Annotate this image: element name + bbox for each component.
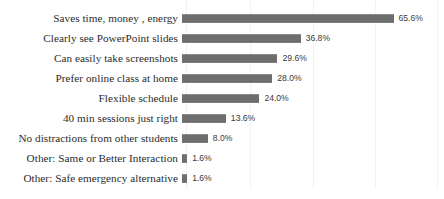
category-label: 40 min sessions just right <box>0 112 182 125</box>
bar-track: 24.0% <box>182 88 444 108</box>
category-label: Clearly see PowerPoint slides <box>0 32 182 45</box>
bar-row: Can easily take screenshots29.6% <box>0 48 444 68</box>
category-label: Prefer online class at home <box>0 72 182 85</box>
data-label: 13.6% <box>231 113 255 123</box>
bar-track: 36.8% <box>182 28 444 48</box>
data-label: 1.6% <box>192 153 212 163</box>
data-label: 24.0% <box>264 93 288 103</box>
bar[interactable] <box>182 54 277 63</box>
bar-row: No distractions from other students8.0% <box>0 128 444 148</box>
bar-rows: Saves time, money , energy65.6%Clearly s… <box>0 0 444 189</box>
bar[interactable] <box>182 34 301 43</box>
bar[interactable] <box>182 14 394 23</box>
bar[interactable] <box>182 94 259 103</box>
category-label: Flexible schedule <box>0 92 182 105</box>
data-label: 28.0% <box>277 73 301 83</box>
bar-track: 13.6% <box>182 108 444 128</box>
bar[interactable] <box>182 114 226 123</box>
category-label: Other: Same or Better Interaction <box>0 152 182 165</box>
bar-row: Other: Safe emergency alternative1.6% <box>0 168 444 188</box>
bar[interactable] <box>182 154 187 163</box>
bar-row: Flexible schedule24.0% <box>0 88 444 108</box>
bar-row: Clearly see PowerPoint slides36.8% <box>0 28 444 48</box>
bar[interactable] <box>182 174 187 183</box>
bar-row: Saves time, money , energy65.6% <box>0 8 444 28</box>
bar[interactable] <box>182 74 272 83</box>
bar-track: 1.6% <box>182 168 444 188</box>
bar-row: 40 min sessions just right13.6% <box>0 108 444 128</box>
data-label: 1.6% <box>192 173 212 183</box>
data-label: 8.0% <box>213 133 233 143</box>
bar-track: 8.0% <box>182 128 444 148</box>
bar-chart: Saves time, money , energy65.6%Clearly s… <box>0 0 444 199</box>
bar-row: Other: Same or Better Interaction1.6% <box>0 148 444 168</box>
bar-track: 1.6% <box>182 148 444 168</box>
data-label: 36.8% <box>306 33 330 43</box>
category-label: No distractions from other students <box>0 132 182 145</box>
bar-track: 29.6% <box>182 48 444 68</box>
category-label: Can easily take screenshots <box>0 52 182 65</box>
bar-track: 65.6% <box>182 8 444 28</box>
bar[interactable] <box>182 134 208 143</box>
category-label: Other: Safe emergency alternative <box>0 172 182 185</box>
bar-row: Prefer online class at home28.0% <box>0 68 444 88</box>
bar-track: 28.0% <box>182 68 444 88</box>
data-label: 29.6% <box>282 53 306 63</box>
category-label: Saves time, money , energy <box>0 12 182 25</box>
data-label: 65.6% <box>399 13 423 23</box>
